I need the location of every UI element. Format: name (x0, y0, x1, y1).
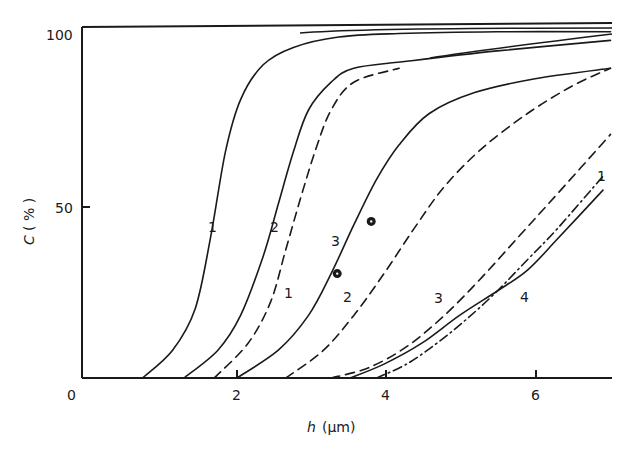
x-tick-label-4: 4 (381, 387, 390, 403)
svg-text:( % ): ( % ) (21, 198, 37, 231)
curve-dash-dot-1-6 (376, 176, 603, 378)
y-tick-label-50: 50 (55, 200, 73, 216)
x-axis-title: h (µm) (307, 419, 355, 435)
curve-label-solid-1: 1 (208, 219, 217, 235)
svg-text:C: C (21, 235, 37, 245)
x-tick-label-2: 2 (232, 387, 241, 403)
curves-group (142, 32, 610, 378)
curve-label-dashed-1: 1 (284, 285, 293, 301)
curve-solid-4-7 (350, 190, 603, 378)
x-tick-label-0: 0 (67, 387, 76, 403)
x-tick-label-6: 6 (531, 387, 540, 403)
curve-label-solid-3: 3 (331, 233, 340, 249)
y-axis-title: C ( % ) (21, 198, 37, 245)
curve-solid-2-1 (184, 40, 611, 378)
curve-solid-1-0 (142, 32, 610, 378)
top-border-line (82, 23, 612, 27)
svg-text:(µm): (µm) (322, 419, 355, 435)
curve-label-solid-4: 4 (520, 289, 529, 305)
chart-figure: 100 50 0 2 4 6 h (µm) C ( % ) 1 2 1 3 2 … (0, 0, 637, 455)
curve-label-dashed-3: 3 (434, 290, 443, 306)
y-tick-label-100: 100 (46, 27, 73, 43)
data-point-marker-center-2 (370, 220, 372, 222)
curve-label-dashed-2: 2 (343, 289, 352, 305)
data-point-marker-center-1 (336, 272, 338, 274)
curve-label-dashdot-1: 1 (597, 168, 606, 184)
curve-label-solid-2: 2 (270, 219, 279, 235)
svg-text:h: h (307, 419, 316, 435)
curve-dashed-3-5 (331, 134, 610, 378)
curve-solid-3-3 (237, 68, 611, 378)
